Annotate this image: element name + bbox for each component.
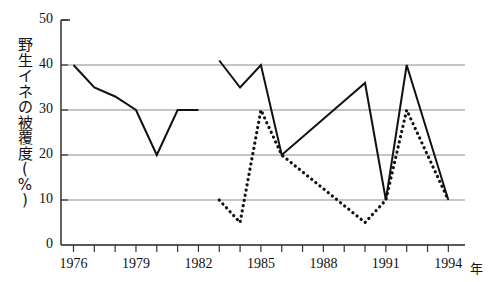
chart-figure: 野 生 イ ネ の 被 覆 度 ( % ) 50 40 30 20 10 0 1… <box>0 0 497 282</box>
plot-area <box>0 0 497 282</box>
y-axis-ticks <box>61 20 68 200</box>
series-solid-segment-2 <box>219 61 448 201</box>
axis-lines <box>61 20 465 245</box>
x-axis-ticks <box>73 245 448 252</box>
data-series-group <box>73 61 448 223</box>
series-dotted-segment <box>219 110 448 223</box>
